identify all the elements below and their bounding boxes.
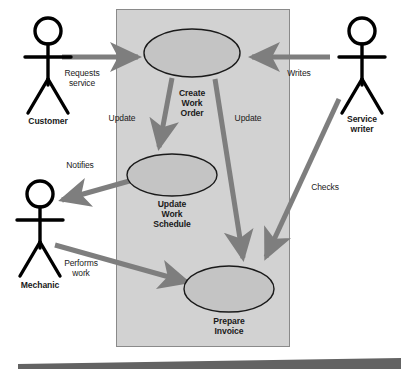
- relationship-label-requests-service: Requests service: [42, 68, 122, 88]
- use-case-update-work-schedule: [127, 154, 217, 196]
- relationship-label-performs-work: Performs work: [46, 258, 116, 278]
- use-case-label-prepare-invoice: Prepare Invoice: [189, 316, 269, 336]
- actor-customer-figure: [25, 18, 71, 113]
- actor-label-customer: Customer: [8, 116, 88, 126]
- use-case-prepare-invoice: [184, 266, 274, 312]
- relationship-label-writes: Writes: [259, 68, 339, 78]
- actor-label-mechanic: Mechanic: [0, 280, 80, 290]
- use-case-create-work-order: [144, 29, 240, 77]
- relationship-label-checks: Checks: [290, 182, 360, 192]
- actor-label-service-writer: Service writer: [322, 114, 401, 134]
- use-case-diagram-canvas: Customer Service writer Mechanic Create …: [0, 0, 401, 369]
- actor-service-writer-figure: [339, 18, 385, 113]
- footer-bar: [18, 358, 401, 369]
- relationship-label-update-invoice: Update: [218, 113, 278, 123]
- relationship-label-update-schedule: Update: [92, 113, 152, 123]
- relationship-label-notifies: Notifies: [45, 160, 115, 170]
- use-case-label-update-work-schedule: Update Work Schedule: [132, 199, 212, 230]
